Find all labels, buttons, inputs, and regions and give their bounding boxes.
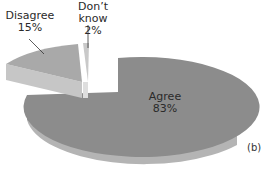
dont-know-slice <box>83 43 89 82</box>
dont-know-label-value: 2% <box>63 25 123 37</box>
dont-know-label-name: Don’t know <box>63 1 123 25</box>
disagree-label: Disagree 15% <box>5 10 55 34</box>
dont-know-slice-side <box>83 82 88 98</box>
agree-label: Agree 83% <box>140 91 190 115</box>
panel-label: (b) <box>247 142 261 153</box>
disagree-label-value: 15% <box>5 22 55 34</box>
dont-know-label: Don’t know 2% <box>63 1 123 37</box>
agree-label-value: 83% <box>140 103 190 115</box>
